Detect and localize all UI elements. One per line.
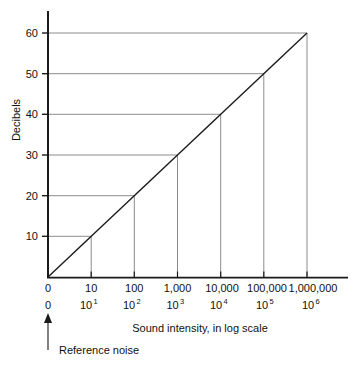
svg-text:10: 10: [166, 299, 178, 311]
x-tick-label-100: 100: [125, 282, 143, 294]
y-tick-label-50: 50: [26, 68, 38, 80]
svg-text:2: 2: [136, 297, 140, 306]
reference-noise-label: Reference noise: [59, 344, 139, 356]
chart-container: 10 20 30 40 50 60 0 10 100 1,000 10,000 …: [0, 0, 355, 365]
y-tick-label-20: 20: [26, 190, 38, 202]
x-axis-title: Sound intensity, in log scale: [132, 322, 268, 334]
y-tick-label-10: 10: [26, 230, 38, 242]
svg-text:4: 4: [223, 297, 227, 306]
svg-text:1: 1: [93, 297, 97, 306]
x-tick-label-0: 0: [45, 282, 51, 294]
svg-text:10: 10: [80, 299, 92, 311]
decibel-log-intensity-chart: 10 20 30 40 50 60 0 10 100 1,000 10,000 …: [0, 0, 355, 365]
x-tick-label-1000000: 1,000,000: [289, 282, 338, 294]
svg-text:10: 10: [256, 299, 268, 311]
svg-text:10: 10: [302, 299, 314, 311]
svg-text:5: 5: [269, 297, 273, 306]
x-tick-label-100000: 100,000: [247, 282, 287, 294]
x-exp-label-0: 0: [45, 299, 51, 311]
x-tick-labels-plain: 0 10 100 1,000 10,000 100,000 1,000,000: [45, 282, 338, 294]
y-axis-title: Decibels: [10, 98, 22, 141]
x-tick-label-10: 10: [85, 282, 97, 294]
y-tick-label-40: 40: [26, 108, 38, 120]
y-tick-label-60: 60: [26, 27, 38, 39]
svg-text:3: 3: [180, 297, 184, 306]
svg-text:10: 10: [123, 299, 135, 311]
svg-text:10: 10: [210, 299, 222, 311]
y-tick-label-30: 30: [26, 149, 38, 161]
svg-text:6: 6: [315, 297, 319, 306]
x-tick-label-10000: 10,000: [205, 282, 239, 294]
x-tick-label-1000: 1,000: [164, 282, 192, 294]
